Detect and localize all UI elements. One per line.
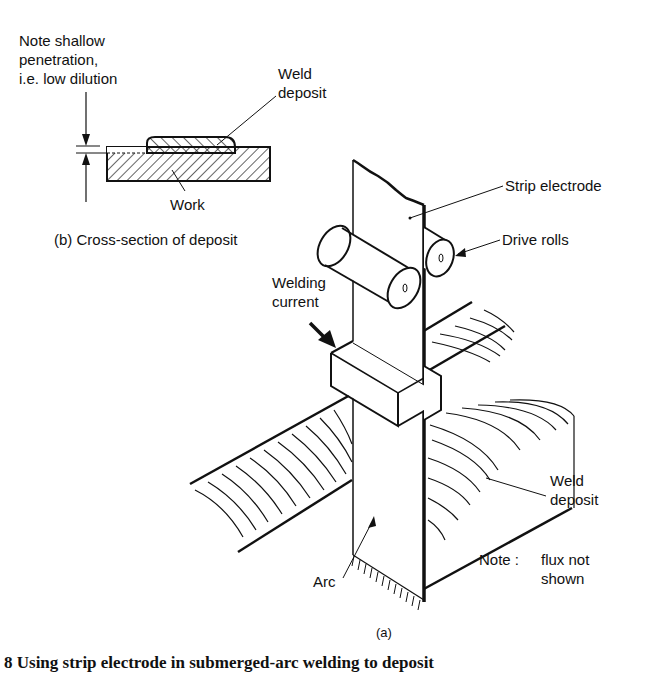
inset-work-label: Work	[170, 195, 205, 214]
flux-note-line2: shown	[541, 569, 584, 588]
strip-welding-assembly	[190, 160, 574, 610]
weld-deposit-bead	[147, 137, 235, 153]
welding-current-line2: current	[272, 292, 319, 311]
strip-electrode-label: Strip electrode	[505, 176, 602, 195]
flux-note-line1: flux not	[541, 550, 589, 569]
weld-deposit-left	[192, 398, 352, 550]
weld-deposit-label-line2: deposit	[550, 490, 598, 509]
cross-section-inset	[76, 92, 276, 202]
inset-weld-deposit-line2: deposit	[278, 83, 326, 102]
drive-roll-right	[421, 227, 458, 280]
inset-note-line3: i.e. low dilution	[19, 69, 117, 88]
main-caption: (a)	[376, 623, 392, 642]
drive-rolls-label: Drive rolls	[502, 230, 569, 249]
inset-weld-deposit-line1: Weld	[278, 64, 312, 83]
figure-caption-partial: 8 Using strip electrode in submerged-arc…	[4, 653, 434, 673]
welding-current-line1: Welding	[272, 273, 326, 292]
flux-note-prefix: Note :	[479, 550, 519, 569]
arc-label: Arc	[313, 572, 336, 591]
inset-note-line2: penetration,	[19, 50, 98, 69]
inset-caption: (b) Cross-section of deposit	[54, 230, 237, 249]
weld-deposit-label-line1: Weld	[550, 471, 584, 490]
inset-note-line1: Note shallow	[19, 31, 105, 50]
